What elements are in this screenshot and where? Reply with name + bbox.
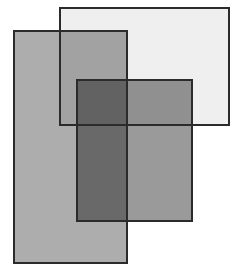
drawing-canvas [0, 0, 244, 279]
medium-gray-rectangle[interactable] [76, 79, 193, 222]
shape-canvas-svg [0, 0, 244, 279]
